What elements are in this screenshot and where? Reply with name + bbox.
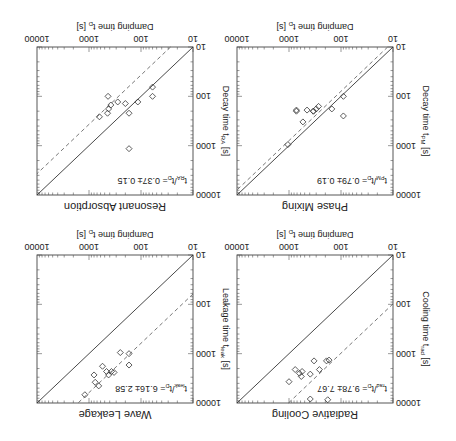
data-point-diamond (307, 396, 313, 402)
ratio-annotation: trad/tD= 9.78± 7.67 (317, 383, 387, 394)
y-tick-label: 1000 (396, 349, 416, 359)
data-point-diamond (115, 99, 121, 105)
data-point-diamond (311, 358, 317, 364)
identity-line (37, 255, 193, 403)
x-axis-label: Damping time tD [s] (277, 21, 354, 32)
y-tick-label: 100 (196, 299, 211, 309)
scaling-law-figure: Radiative Cooling10101001001000100010000… (0, 0, 456, 441)
data-point-diamond (126, 362, 132, 368)
data-point-diamond (105, 93, 111, 99)
x-tick-label: 1000 (79, 242, 99, 252)
y-tick-label: 10 (396, 42, 406, 52)
panel-resonant-absorption: Resonant Absorption101010010010001000100… (24, 21, 231, 213)
panel-radiative-cooling: Radiative Cooling10101001001000100010000… (224, 229, 431, 421)
data-point-diamond (286, 379, 292, 385)
data-point-diamond (122, 101, 128, 107)
identity-line (237, 255, 393, 403)
panel-title: Resonant Absorption (64, 201, 166, 213)
data-point-diamond (307, 371, 313, 377)
x-axis-label: Damping time tD [s] (77, 229, 154, 240)
x-tick-label: 10000 (224, 34, 249, 44)
y-tick-label: 10000 (196, 398, 221, 408)
panel-title: Radiative Cooling (272, 409, 358, 421)
x-axis-label: Damping time tD [s] (77, 21, 154, 32)
y-tick-label: 10 (196, 250, 206, 260)
x-tick-label: 100 (133, 34, 148, 44)
y-tick-label: 10 (396, 250, 406, 260)
y-axis-label: Decay time tRA [s] (220, 86, 231, 156)
x-tick-label: 100 (333, 242, 348, 252)
figure-rotated-180: Radiative Cooling10101001001000100010000… (0, 0, 456, 441)
y-tick-label: 10 (196, 42, 206, 52)
data-point-diamond (117, 350, 123, 356)
panel-phase-mixing: Phase Mixing1010100100100010001000010000… (224, 21, 431, 213)
data-point-diamond (100, 363, 106, 369)
y-tick-label: 1000 (396, 141, 416, 151)
y-axis-label: Cooling time trad [s] (420, 291, 431, 367)
data-point-diamond (126, 110, 132, 116)
y-axis-label: Leakage time tleak [s] (220, 288, 231, 370)
panel-title: Phase Mixing (282, 201, 348, 213)
x-tick-label: 100 (333, 34, 348, 44)
x-axis-label: Damping time tD [s] (277, 229, 354, 240)
data-point-diamond (91, 372, 97, 378)
y-tick-label: 10000 (396, 190, 421, 200)
ratio-annotation: tleak/tD= 6.16± 2.58 (115, 383, 187, 394)
data-point-diamond (108, 102, 114, 108)
y-tick-label: 10000 (196, 190, 221, 200)
y-tick-label: 100 (396, 91, 411, 101)
y-tick-label: 100 (196, 91, 211, 101)
data-point-diamond (126, 146, 132, 152)
data-point-diamond (126, 351, 132, 357)
x-tick-label: 1000 (79, 34, 99, 44)
y-axis-label: Decay time tPM [s] (420, 85, 431, 156)
x-tick-label: 1000 (279, 242, 299, 252)
data-point-diamond (300, 119, 306, 125)
ratio-fit-line (37, 47, 171, 174)
data-point-diamond (150, 93, 156, 99)
identity-line (237, 47, 393, 195)
ratio-annotation: tRA/tD= 0.37± 0.15 (118, 175, 187, 186)
ratio-annotation: tPM/tD= 0.79± 0.19 (317, 175, 387, 186)
x-tick-label: 10000 (24, 242, 49, 252)
y-tick-label: 1000 (196, 141, 216, 151)
y-tick-label: 10000 (396, 398, 421, 408)
y-tick-label: 100 (396, 299, 411, 309)
y-tick-label: 1000 (196, 349, 216, 359)
identity-line (37, 47, 193, 195)
panel-wave-leakage: Wave Leakage1010100100100010001000010000… (24, 229, 231, 421)
data-point-diamond (292, 367, 298, 373)
x-tick-label: 1000 (279, 34, 299, 44)
ratio-fit-line (237, 47, 388, 190)
x-tick-label: 10000 (224, 242, 249, 252)
x-tick-label: 10000 (24, 34, 49, 44)
data-point-diamond (304, 107, 310, 113)
data-point-diamond (340, 113, 346, 119)
x-tick-label: 100 (133, 242, 148, 252)
panel-title: Wave Leakage (79, 409, 152, 421)
